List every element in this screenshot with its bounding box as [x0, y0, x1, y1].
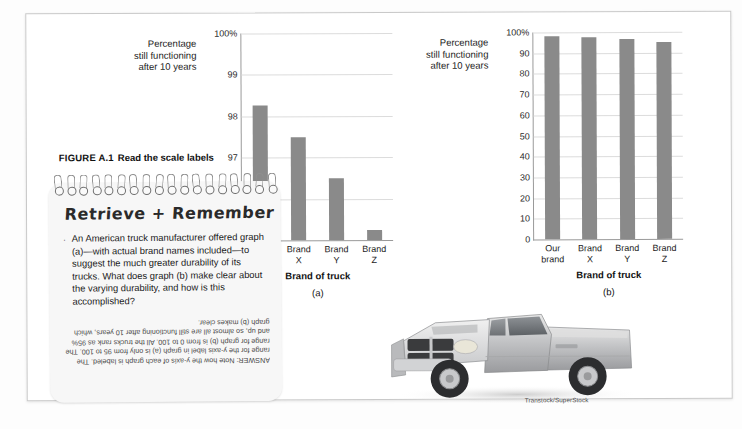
y-axis-title-line: after 10 years — [64, 61, 196, 73]
notepad-question-text: An American truck manufacturer offered g… — [72, 231, 270, 308]
y-axis-title-a: Percentagestill functioningafter 10 year… — [64, 38, 196, 73]
y-axis-tick-label: 80 — [519, 69, 529, 79]
x-axis-category-label: BrandZ — [646, 243, 683, 265]
bar — [291, 137, 306, 241]
spiral-ring-icon — [242, 173, 250, 195]
y-axis-tick-label: 99 — [227, 70, 237, 80]
y-axis-tick-label: 70 — [520, 90, 530, 100]
truck-illustration — [379, 282, 647, 405]
y-axis-tick-label: 90 — [519, 48, 529, 58]
x-axis-category-label: BrandX — [280, 244, 318, 266]
y-axis-title-line: Percentage — [364, 37, 488, 49]
gridline — [241, 74, 392, 76]
spiral-ring-icon — [128, 174, 137, 196]
notepad-question: · An American truck manufacturer offered… — [63, 231, 270, 308]
retrieve-remember-notepad: Retrieve + Remember · An American truck … — [48, 181, 282, 403]
spiral-ring-icon — [66, 175, 75, 197]
spiral-ring-icon — [104, 174, 112, 196]
x-axis-category-line: Z — [355, 255, 393, 266]
bar — [367, 230, 382, 240]
spiral-ring-icon — [216, 173, 225, 195]
y-axis-tick-label: 20 — [520, 193, 530, 203]
x-axis-category-line: Brand — [318, 244, 356, 255]
bar — [329, 178, 344, 240]
bar — [545, 36, 561, 239]
x-axis-category-line: X — [571, 254, 608, 265]
y-axis-tick-label: 40 — [520, 152, 530, 162]
x-axis-category-line: Our — [534, 243, 571, 254]
x-axis-category-line: Brand — [571, 243, 608, 254]
y-axis-tick-label: 50 — [520, 131, 530, 141]
y-axis-tick-label: 98 — [228, 111, 238, 121]
x-axis-category-line: Y — [609, 254, 646, 265]
y-axis-title-line: still functioning — [64, 49, 196, 61]
spiral-ring-icon — [116, 174, 125, 196]
y-axis-tick-label: 30 — [520, 172, 530, 182]
textbook-page-frame: Percentagestill functioningafter 10 year… — [25, 11, 732, 402]
spiral-ring-icon — [229, 173, 239, 196]
x-axis-category-label: BrandX — [571, 243, 608, 265]
spiral-ring-icon — [267, 173, 276, 195]
y-axis-tick-label: 100% — [214, 29, 237, 39]
bar — [582, 37, 598, 239]
spiral-ring-icon — [179, 174, 188, 196]
x-axis-category-line: Brand — [280, 244, 318, 255]
x-axis-category-line: Brand — [355, 244, 393, 255]
bar — [656, 42, 672, 239]
x-axis-category-line: Y — [318, 255, 356, 266]
x-axis-category-label: BrandY — [318, 244, 356, 266]
truck-photograph — [379, 282, 647, 405]
notepad-answer-inverted: ANSWER: Note how the y-axis of each grap… — [64, 317, 270, 367]
y-axis-title-line: Percentage — [64, 38, 196, 50]
spiral-ring-icon — [52, 174, 62, 197]
y-axis-title-b: Percentagestill functioningafter 10 year… — [364, 37, 488, 72]
bullet-icon: · — [63, 234, 66, 247]
spiral-ring-icon — [153, 174, 163, 197]
bar — [619, 39, 635, 239]
x-axis-category-label: Ourbrand — [534, 243, 571, 265]
x-axis-category-line: Z — [646, 254, 683, 265]
chart-panel-b: Percentagestill functioningafter 10 year… — [496, 24, 687, 253]
photo-credit: Transtock/SuperStock — [525, 396, 589, 403]
notepad-heading: Retrieve + Remember — [64, 203, 275, 224]
spiral-ring-icon — [204, 173, 213, 195]
figure-caption: FIGURE A.1Read the scale labels — [59, 152, 214, 164]
y-axis-tick-label: 60 — [520, 110, 530, 120]
x-axis-labels-b: OurbrandBrandXBrandYBrandZ — [534, 243, 683, 266]
spiral-ring-icon — [90, 174, 100, 197]
screenshot-root: Percentagestill functioningafter 10 year… — [0, 0, 742, 429]
y-axis-title-line: still functioning — [364, 48, 488, 60]
spiral-binding-icon — [53, 173, 275, 201]
y-axis-tick-label: 10 — [520, 214, 530, 224]
spiral-ring-icon — [191, 173, 201, 196]
x-axis-category-line: X — [280, 255, 318, 266]
x-axis-category-line: Brand — [609, 243, 646, 254]
x-axis-category-label: BrandZ — [355, 244, 393, 266]
figure-title: Read the scale labels — [118, 152, 214, 163]
spiral-ring-icon — [141, 174, 149, 196]
plot-area-b: OurbrandBrandXBrandYBrandZ Brand of truc… — [532, 32, 683, 241]
spiral-ring-icon — [78, 174, 87, 196]
figure-number: FIGURE A.1 — [59, 152, 114, 163]
y-axis-tick-label: 100% — [506, 27, 529, 37]
y-axis-title-line: after 10 years — [364, 60, 488, 72]
y-axis-tick-label: 0 — [525, 234, 530, 244]
x-axis-category-line: Brand — [646, 243, 683, 254]
gridline — [533, 32, 682, 34]
x-axis-category-label: BrandY — [609, 243, 646, 265]
x-axis-title-b: Brand of truck — [534, 269, 683, 281]
spiral-ring-icon — [254, 173, 263, 195]
spiral-ring-icon — [166, 174, 175, 196]
y-axis-tick-label: 97 — [228, 153, 238, 163]
x-axis-category-line: brand — [534, 254, 571, 265]
gridline — [241, 33, 392, 35]
